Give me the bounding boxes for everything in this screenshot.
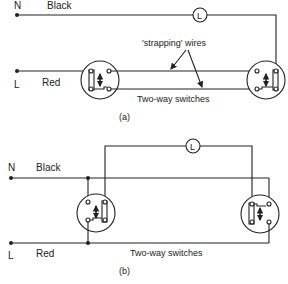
switches-label: Two-way switches [137, 94, 210, 104]
lamp-left-wire [105, 146, 186, 200]
live-terminal-label-b: L [8, 250, 14, 261]
caption-b: (b) [119, 266, 130, 276]
strapping-arrow-1 [171, 50, 186, 69]
diagram-a: N Black L L Red [14, 0, 285, 122]
strapping-wires-label: 'strapping' wires [142, 38, 206, 48]
two-way-switch-right [247, 61, 285, 99]
lamp-label: L [197, 11, 202, 21]
wiring-diagram: N Black L L Red [0, 0, 288, 284]
diagram-b: L N Black [8, 139, 279, 276]
lamp-label-b: L [190, 142, 195, 152]
two-way-switch-right-b [241, 195, 279, 233]
live-terminal-label: L [14, 79, 20, 90]
neutral-terminal-label-b: N [8, 162, 15, 173]
neutral-terminal-label: N [14, 0, 21, 11]
live-wire-color-label-b: Red [36, 248, 54, 259]
two-way-switch-left [81, 61, 119, 99]
switches-label-b: Two-way switches [130, 248, 203, 258]
live-wire-color-label: Red [42, 77, 60, 88]
lamp-right-wire [200, 146, 252, 202]
caption-a: (a) [119, 112, 130, 122]
neutral-wire-color-label: Black [47, 0, 72, 11]
strapping-arrow-2 [188, 50, 202, 87]
two-way-switch-left-b [77, 194, 115, 232]
neutral-wire-color-label-b: Black [36, 162, 61, 173]
